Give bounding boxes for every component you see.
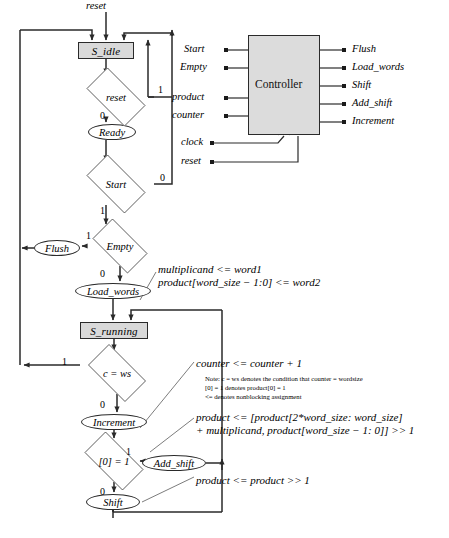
output-box-shift[interactable]: Shift: [86, 494, 140, 510]
controller-output-add-shift: Add_shift: [352, 97, 392, 108]
pin-dot-increment-out: [342, 120, 346, 124]
decision-label: Start: [78, 163, 154, 205]
annotation-add-shift-line2: + multiplicand, product[word_size − 1: 0…: [196, 424, 414, 438]
pin-dot-reset: [210, 160, 214, 164]
asmd-chart-figure: reset S_idle S_running Ready Flush Load_…: [0, 0, 449, 538]
pin-dot-clock: [210, 141, 214, 145]
note-line-1: Note: c = ws denotes the condition that …: [205, 375, 363, 384]
output-box-flush[interactable]: Flush: [34, 240, 80, 256]
decision-label: [0] = 1: [76, 440, 152, 482]
branch-label-cws-0: 0: [100, 399, 105, 410]
controller-output-shift: Shift: [352, 79, 371, 90]
branch-label-reset-0: 0: [100, 110, 105, 121]
pin-dot-counter: [224, 114, 228, 118]
state-box-s-idle[interactable]: S_idle: [78, 42, 134, 59]
decision-empty[interactable]: Empty: [85, 226, 155, 266]
top-reset-signal-label: reset: [86, 0, 106, 11]
controller-input-empty: Empty: [180, 61, 207, 72]
controller-input-counter: counter: [172, 109, 204, 120]
controller-input-start: Start: [184, 43, 204, 54]
note-line-2: [0] = 1 denotes product[0] = 1: [205, 384, 286, 393]
state-box-s-running[interactable]: S_running: [80, 322, 148, 339]
controller-input-product: product: [172, 91, 204, 102]
controller-output-flush: Flush: [352, 43, 376, 54]
pin-dot-flush-out: [342, 48, 346, 52]
output-box-increment[interactable]: Increment: [81, 414, 147, 430]
pin-dot-load-words-out: [342, 66, 346, 70]
controller-output-increment: Increment: [352, 115, 394, 126]
annotation-shift: product <= product >> 1: [196, 474, 310, 488]
decision-reset[interactable]: reset: [78, 76, 154, 118]
controller-block-label: Controller: [255, 78, 302, 90]
pin-dot-empty: [224, 66, 228, 70]
controller-input-clock: clock: [181, 136, 203, 147]
decision-start[interactable]: Start: [78, 163, 154, 205]
pin-dot-start: [224, 48, 228, 52]
annotation-add-shift-line1: product <= [product[2*word_size: word_si…: [196, 411, 403, 425]
annotation-load-words-line1: multiplicand <= word1: [158, 263, 262, 277]
annotation-increment: counter <= counter + 1: [196, 357, 302, 371]
branch-label-start-1: 1: [100, 205, 105, 216]
branch-label-reset-1: 1: [158, 84, 163, 95]
branch-label-empty-0: 0: [100, 268, 105, 279]
pin-dot-shift-out: [342, 84, 346, 88]
branch-label-bit0-1: 1: [126, 446, 131, 457]
pin-dot-product: [224, 96, 228, 100]
branch-label-empty-1: 1: [86, 230, 91, 241]
output-box-load-words[interactable]: Load_words: [75, 283, 151, 299]
controller-input-reset: reset: [181, 155, 201, 166]
controller-output-load-words: Load_words: [352, 61, 404, 72]
decision-label: Empty: [85, 226, 155, 266]
output-box-ready[interactable]: Ready: [88, 124, 136, 140]
note-line-3: <= denotes nonblocking assignment: [205, 393, 302, 402]
decision-bit0-equals-1[interactable]: [0] = 1: [76, 440, 152, 482]
branch-label-cws-1: 1: [62, 356, 67, 367]
decision-label: c = ws: [80, 352, 154, 394]
annotation-load-words-line2: product[word_size − 1:0] <= word2: [158, 276, 320, 290]
pin-dot-add-shift-out: [342, 102, 346, 106]
branch-label-start-0: 0: [160, 172, 165, 183]
branch-label-bit0-0: 0: [100, 486, 105, 497]
decision-label: reset: [78, 76, 154, 118]
decision-c-equals-ws[interactable]: c = ws: [80, 352, 154, 394]
